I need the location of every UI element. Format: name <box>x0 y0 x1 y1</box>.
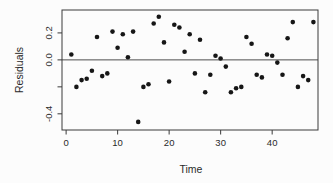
x-axis-title: Time <box>180 163 203 175</box>
data-point <box>280 72 285 77</box>
y-axis-tick-label: 0.2 <box>43 26 54 39</box>
data-point <box>218 56 223 61</box>
data-point <box>115 46 120 51</box>
y-axis-tick-label: -0.4 <box>43 106 54 122</box>
plot-area: 0102030400.20.0-0.4 <box>43 10 319 148</box>
data-point <box>198 37 203 42</box>
data-point <box>229 90 234 95</box>
data-point <box>234 86 239 91</box>
data-point <box>270 54 275 59</box>
data-point <box>177 25 182 30</box>
data-point <box>193 71 198 76</box>
data-point <box>146 82 151 87</box>
data-point <box>95 35 100 40</box>
data-point <box>244 35 249 40</box>
data-point <box>136 120 141 125</box>
data-point <box>311 20 316 25</box>
data-point <box>100 74 105 79</box>
data-point <box>239 85 244 90</box>
x-axis-tick-label: 30 <box>215 137 226 148</box>
data-point <box>79 78 84 83</box>
residuals-plot-figure: 0102030400.20.0-0.4 Time Residuals <box>0 0 333 183</box>
x-axis-tick-label: 40 <box>267 137 278 148</box>
x-axis-tick-label: 0 <box>63 137 68 148</box>
residuals-scatter-chart: 0102030400.20.0-0.4 Time Residuals <box>0 0 333 183</box>
data-point <box>203 90 208 95</box>
data-point <box>213 54 218 59</box>
data-point <box>301 74 306 79</box>
data-point <box>162 40 167 45</box>
data-point <box>121 32 126 37</box>
data-point <box>296 85 301 90</box>
plot-border <box>62 10 318 130</box>
data-point <box>167 79 172 84</box>
data-point <box>182 50 187 55</box>
data-point <box>306 78 311 83</box>
data-point <box>69 52 74 57</box>
x-axis-tick-label: 10 <box>112 137 123 148</box>
data-point <box>74 85 79 90</box>
data-point <box>141 85 146 90</box>
y-axis-tick-label: 0.0 <box>43 53 54 66</box>
data-point <box>260 75 265 80</box>
data-point <box>249 41 254 46</box>
data-point <box>224 64 229 69</box>
data-point <box>291 20 296 25</box>
data-point <box>208 72 213 77</box>
data-point <box>254 72 259 77</box>
x-axis-tick-label: 20 <box>164 137 175 148</box>
data-point <box>126 55 131 60</box>
data-point <box>105 71 110 76</box>
data-point <box>84 77 89 82</box>
data-point <box>285 36 290 41</box>
data-point <box>275 60 280 65</box>
data-point <box>151 21 156 26</box>
data-point <box>131 29 136 34</box>
data-point <box>172 23 177 28</box>
y-axis-title: Residuals <box>13 47 25 93</box>
data-point <box>90 68 95 73</box>
data-point <box>265 52 270 57</box>
data-point <box>157 14 162 19</box>
data-point <box>110 29 115 34</box>
data-point <box>187 32 192 37</box>
